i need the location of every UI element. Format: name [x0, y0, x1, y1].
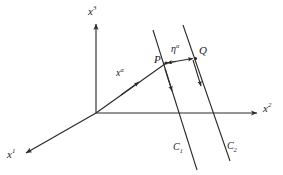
position-vector-arrow: [121, 82, 139, 95]
figure-canvas: x3 x2 x1 xα ηα P Q C1 C2: [0, 0, 283, 175]
point-Q-marker: [194, 57, 197, 60]
axis-label-x1: x1: [7, 149, 15, 160]
label-deviation-vector: ηα: [171, 44, 179, 54]
label-curve-C1: C1: [173, 142, 183, 152]
deviation-vector-group: [166, 59, 193, 64]
label-curve-C2: C2: [227, 141, 237, 151]
geodesic-deviation-diagram: [0, 0, 283, 175]
axis-label-x3: x3: [88, 6, 96, 17]
point-P-marker: [164, 61, 167, 64]
curve-C1-direction-arrow: [165, 69, 172, 91]
axis-label-x2: x2: [263, 103, 271, 114]
label-point-P: P: [154, 54, 161, 65]
label-point-Q: Q: [199, 45, 207, 56]
axis-x1: [26, 113, 96, 153]
label-position-vector: xα: [116, 68, 124, 78]
x1-axis-line: [26, 113, 96, 153]
position-vector-group: [96, 63, 167, 114]
